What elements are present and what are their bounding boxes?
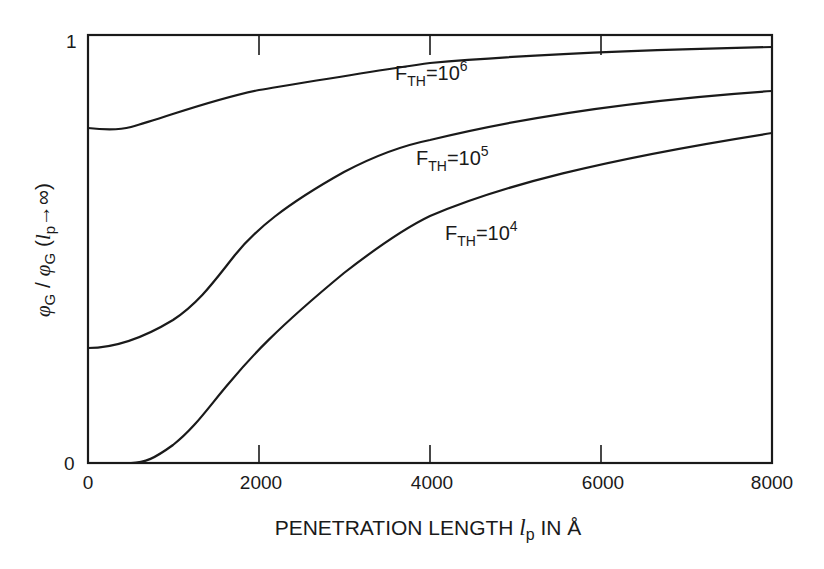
x-tick-2000: 2000 xyxy=(240,472,282,493)
x-axis-title: PENETRATION LENGTH lp IN Å xyxy=(275,515,582,543)
curve-fth-1e5 xyxy=(88,91,772,348)
curve-fth-1e6 xyxy=(88,47,772,129)
x-tick-8000: 8000 xyxy=(751,472,793,493)
label-fth-1e5: FTH=105 xyxy=(416,143,489,174)
x-tick-4000: 4000 xyxy=(411,472,453,493)
y-axis-title: φG / φG (lp→∞) xyxy=(31,183,58,317)
label-fth-1e4: FTH=104 xyxy=(445,218,518,249)
x-tick-0: 0 xyxy=(83,472,94,493)
y-tick-0: 0 xyxy=(64,453,75,474)
y-tick-1: 1 xyxy=(66,31,77,52)
x-tick-6000: 6000 xyxy=(582,472,624,493)
curve-fth-1e4 xyxy=(131,133,772,463)
label-fth-1e6: FTH=106 xyxy=(395,58,468,89)
chart: FTH=106 FTH=105 FTH=104 1 0 0 2000 4000 … xyxy=(0,0,824,569)
x-ticks xyxy=(259,35,601,463)
